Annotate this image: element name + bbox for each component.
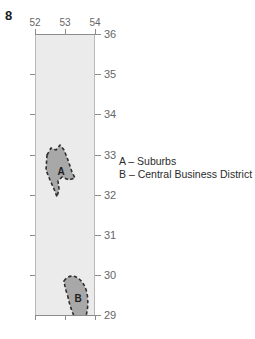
- region-label-b: B: [74, 293, 81, 304]
- region-label-a: A: [57, 166, 64, 177]
- legend-entry-b: B – Central Business District: [119, 168, 252, 181]
- legend-entry-a: A – Suburbs: [119, 155, 252, 168]
- legend: A – Suburbs B – Central Business Distric…: [119, 155, 252, 181]
- figure-container: 8 52 53 54 36 35 34 33 32 31 30 29: [0, 0, 255, 339]
